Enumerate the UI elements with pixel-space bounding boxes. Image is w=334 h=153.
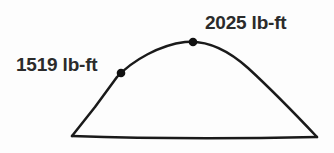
marker-dot-peak: [189, 38, 198, 47]
marker-dot-mid: [117, 69, 126, 78]
baseline-line: [72, 136, 317, 138]
torque-curve-arc: [72, 42, 317, 137]
peak-torque-label: 2025 lb-ft: [205, 13, 286, 32]
torque-curve-figure: 1519 lb-ft 2025 lb-ft: [0, 0, 334, 153]
mid-torque-label: 1519 lb-ft: [16, 55, 97, 74]
